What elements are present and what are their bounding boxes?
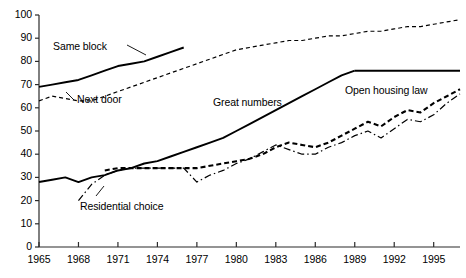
leader-line-same-block xyxy=(127,45,146,55)
y-tick-label: 40 xyxy=(0,147,32,159)
leader-line-residential-choice xyxy=(96,186,104,196)
series-label-next-door: Next door xyxy=(77,93,122,105)
series-line-residential-choice xyxy=(78,94,460,201)
series-label-open-housing-law: Open housing law xyxy=(345,84,427,96)
y-tick-label: 100 xyxy=(0,8,32,20)
y-tick-label: 70 xyxy=(0,78,32,90)
annotation-leader-lines xyxy=(66,45,146,196)
y-tick-label: 10 xyxy=(0,217,32,229)
line-chart: 0102030405060708090100 19651968197119741… xyxy=(0,0,466,278)
y-tick-label: 60 xyxy=(0,101,32,113)
series-line-same-block xyxy=(39,47,184,86)
x-tick-label: 1995 xyxy=(410,253,458,265)
series-label-residential-choice: Residential choice xyxy=(80,200,163,212)
y-tick-label: 80 xyxy=(0,54,32,66)
series-label-same-block: Same block xyxy=(53,40,107,52)
series-line-great-numbers xyxy=(39,71,355,182)
y-tick-label: 30 xyxy=(0,170,32,182)
y-tick-label: 0 xyxy=(0,240,32,252)
y-tick-label: 20 xyxy=(0,194,32,206)
y-tick-label: 50 xyxy=(0,124,32,136)
series-label-great-numbers: Great numbers xyxy=(213,96,282,108)
y-tick-label: 90 xyxy=(0,31,32,43)
series-line-residential-choice-dashed-series xyxy=(105,89,460,170)
x-axis-ticks xyxy=(39,242,434,247)
